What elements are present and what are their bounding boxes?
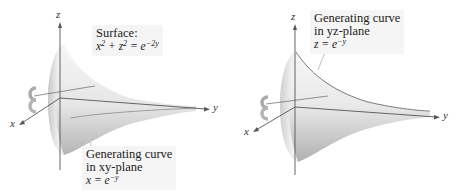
- z-axis-label: z: [56, 8, 60, 20]
- z-axis-arrow-icon: [293, 24, 297, 30]
- rotation-arrow-icon: [30, 88, 36, 112]
- surface-equation: x2 + z2 = e−2y: [96, 40, 159, 53]
- y-axis-arrow-icon: [434, 115, 440, 120]
- pointer-line: [318, 52, 325, 70]
- z-axis-arrow-icon: [58, 22, 62, 28]
- generating-curve-xy-label: Generating curve in xy-plane x = e−y: [82, 146, 176, 190]
- y-axis-label: y: [213, 101, 218, 113]
- x-axis-arrow-icon: [19, 120, 25, 125]
- generating-curve-xy-plane: in xy-plane: [86, 161, 172, 174]
- generating-curve-yz-equation: z = e−y: [314, 38, 400, 51]
- surface-body: [48, 44, 196, 155]
- generating-curve-xy-equation: x = e−y: [86, 174, 172, 187]
- x-axis-arrow-icon: [253, 127, 259, 132]
- generating-curve-yz-label: Generating curve in yz-plane z = e−y: [310, 10, 404, 54]
- right-figure: z y x Generating curve in yz-plane z = e…: [228, 0, 457, 195]
- generating-curve-yz-plane: in yz-plane: [314, 25, 400, 38]
- x-axis-label: x: [244, 125, 249, 137]
- surface-label: Surface: x2 + z2 = e−2y: [92, 25, 163, 56]
- rotation-arrow-icon: [262, 97, 268, 119]
- surface-body: [280, 52, 430, 162]
- left-figure: z y x Surface: x2 + z2 = e−2y Generating…: [0, 0, 228, 195]
- x-axis-label: x: [10, 117, 15, 129]
- y-axis-arrow-icon: [204, 107, 210, 112]
- z-axis-label: z: [291, 10, 295, 22]
- y-axis-label: y: [443, 109, 448, 121]
